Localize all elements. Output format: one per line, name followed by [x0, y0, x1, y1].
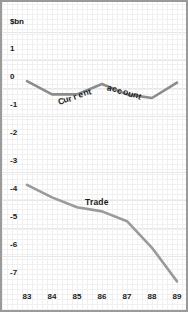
series-line-current-account — [27, 81, 177, 98]
chart-container: $bn 10-1-2-3-4-5-6-7 83848586878889 Curr… — [0, 0, 188, 312]
series-label-trade: Trade — [85, 197, 109, 207]
chart-plot-area — [0, 0, 188, 312]
